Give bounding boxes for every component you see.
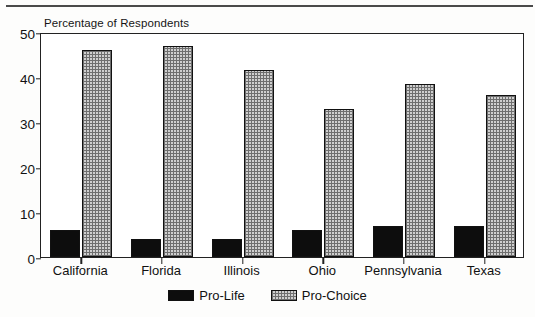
y-axis-tick-mark [36,33,41,34]
legend-item-pro-choice: Pro-Choice [271,288,367,303]
y-axis-tick-label: 40 [20,72,35,87]
bar-pro-choice-ohio [324,109,354,258]
bar-pro-choice-florida [163,46,193,258]
bar-pro-choice-texas [486,95,516,257]
y-axis-tick-mark [36,123,41,124]
y-axis-tick-mark [36,258,41,259]
bar-pro-life-pennsylvania [373,226,403,258]
x-axis-tick-label-illinois: Illinois [224,263,260,278]
bar-pro-life-ohio [292,230,322,257]
legend-item-pro-life: Pro-Life [168,288,245,303]
bar-pro-choice-illinois [244,70,274,257]
x-axis-tick-label-ohio: Ohio [309,263,336,278]
chart-legend: Pro-LifePro-Choice [0,288,535,303]
y-axis-tick-label: 30 [20,117,35,132]
y-axis-tick-mark [36,78,41,79]
bar-pro-choice-pennsylvania [405,84,435,257]
x-axis-tick-label-florida: Florida [141,263,181,278]
chart-title: Percentage of Respondents [44,17,189,29]
x-axis-tick-label-pennsylvania: Pennsylvania [364,263,441,278]
x-axis-tick-label-california: California [53,263,108,278]
x-axis-tick-label-texas: Texas [467,263,501,278]
bar-pro-life-florida [131,239,161,257]
legend-label: Pro-Life [199,288,245,303]
gray-hatched-swatch [271,290,297,301]
y-axis-tick-mark [36,213,41,214]
y-axis-tick-label: 20 [20,162,35,177]
figure-root: Percentage of Respondents 01020304050 Pr… [0,0,535,317]
y-axis-tick-label: 10 [20,207,35,222]
page-horizontal-rule [6,5,533,7]
bar-pro-life-california [50,230,80,257]
y-axis-tick-label: 0 [27,252,35,267]
bar-pro-choice-california [82,50,112,257]
y-axis-tick-label: 50 [20,27,35,42]
bar-pro-life-texas [454,226,484,258]
legend-label: Pro-Choice [302,288,367,303]
plot-area: 01020304050 [41,34,523,257]
plot-frame: 01020304050 [40,33,524,258]
solid-black-swatch [168,290,194,301]
bar-pro-life-illinois [212,239,242,257]
y-axis-tick-mark [36,168,41,169]
